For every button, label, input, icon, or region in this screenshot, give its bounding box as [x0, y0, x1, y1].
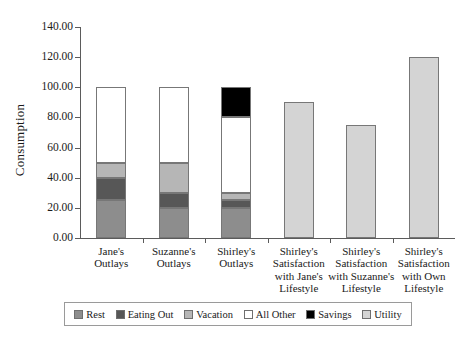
bar-segment-all-other[interactable] — [159, 87, 189, 162]
y-tick-label: 100.00 — [13, 80, 73, 92]
bar-segment-savings[interactable] — [221, 87, 251, 117]
y-tick-label: 140.00 — [13, 20, 73, 32]
bar-segment-utility[interactable] — [284, 102, 314, 238]
bar-segment-rest[interactable] — [96, 200, 126, 238]
y-tick-mark — [75, 87, 80, 88]
x-tick-mark — [143, 238, 144, 243]
bar-1[interactable] — [96, 27, 126, 238]
y-tick-label: 120.00 — [13, 50, 73, 62]
legend-swatch-icon — [362, 310, 371, 319]
y-tick-mark — [75, 148, 80, 149]
bar-segment-vacation[interactable] — [221, 193, 251, 201]
y-tick-mark — [75, 208, 80, 209]
bar-6[interactable] — [409, 27, 439, 238]
bar-segment-rest[interactable] — [221, 208, 251, 238]
legend-label: Vacation — [196, 309, 233, 320]
y-axis-line — [80, 27, 81, 238]
legend-label: Savings — [318, 309, 351, 320]
legend-item-vacation[interactable]: Vacation — [184, 309, 233, 320]
bar-3[interactable] — [221, 27, 251, 238]
bar-segment-all-other[interactable] — [221, 117, 251, 192]
y-tick-mark — [75, 117, 80, 118]
legend-item-rest[interactable]: Rest — [74, 309, 105, 320]
bar-segment-vacation[interactable] — [96, 163, 126, 178]
y-tick-mark — [75, 27, 80, 28]
y-tick-label: 20.00 — [13, 201, 73, 213]
bar-segment-utility[interactable] — [409, 57, 439, 238]
legend-item-all-other[interactable]: All Other — [244, 309, 296, 320]
legend-swatch-icon — [184, 310, 193, 319]
legend-label: All Other — [256, 309, 296, 320]
stacked-bar-chart: Consumption 0.0020.0040.0060.0080.00100.… — [0, 0, 475, 341]
legend-label: Eating Out — [128, 309, 174, 320]
x-tick-mark — [393, 238, 394, 243]
bar-4[interactable] — [284, 27, 314, 238]
legend-swatch-icon — [74, 310, 83, 319]
bar-segment-vacation[interactable] — [159, 163, 189, 193]
bar-2[interactable] — [159, 27, 189, 238]
bar-segment-eating-out[interactable] — [96, 178, 126, 201]
legend-item-utility[interactable]: Utility — [362, 309, 401, 320]
legend-label: Rest — [86, 309, 105, 320]
y-tick-mark — [75, 178, 80, 179]
legend-label: Utility — [374, 309, 401, 320]
legend-swatch-icon — [306, 310, 315, 319]
bar-segment-rest[interactable] — [159, 208, 189, 238]
bar-segment-eating-out[interactable] — [221, 200, 251, 208]
y-tick-mark — [75, 57, 80, 58]
category-label-6: Shirley's Satisfaction with Own Lifestyl… — [382, 245, 466, 295]
bar-5[interactable] — [346, 27, 376, 238]
bar-segment-all-other[interactable] — [96, 87, 126, 162]
legend-item-eating-out[interactable]: Eating Out — [116, 309, 174, 320]
bar-segment-eating-out[interactable] — [159, 193, 189, 208]
plot-area: 0.0020.0040.0060.0080.00100.00120.00140.… — [80, 27, 455, 238]
y-tick-label: 40.00 — [13, 171, 73, 183]
bar-segment-utility[interactable] — [346, 125, 376, 238]
y-tick-label: 60.00 — [13, 141, 73, 153]
chart-legend: RestEating OutVacationAll OtherSavingsUt… — [64, 302, 412, 326]
x-tick-mark — [330, 238, 331, 243]
x-tick-mark — [205, 238, 206, 243]
legend-swatch-icon — [116, 310, 125, 319]
x-tick-mark — [268, 238, 269, 243]
legend-item-savings[interactable]: Savings — [306, 309, 351, 320]
y-tick-mark — [75, 238, 80, 239]
legend-swatch-icon — [244, 310, 253, 319]
y-tick-label: 0.00 — [13, 231, 73, 243]
y-tick-label: 80.00 — [13, 110, 73, 122]
